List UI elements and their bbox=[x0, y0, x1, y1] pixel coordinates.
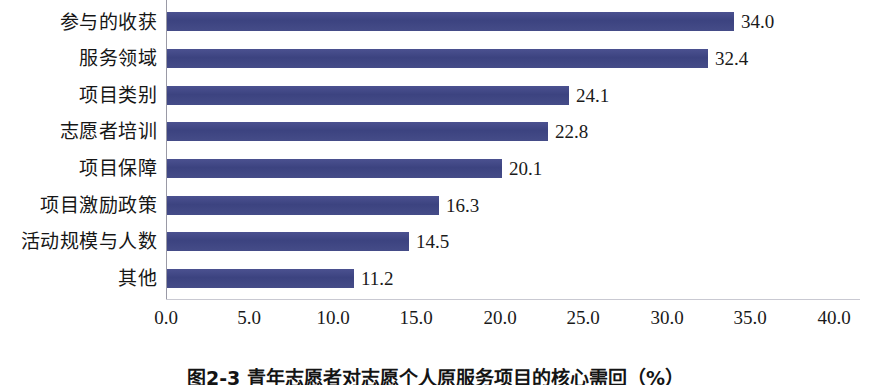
category-label: 服务领域 bbox=[79, 48, 157, 68]
bar-value-label: 16.3 bbox=[446, 196, 479, 215]
category-label: 项目激励政策 bbox=[40, 195, 157, 215]
bar-value-label: 22.8 bbox=[555, 122, 588, 141]
x-tick-label: 5.0 bbox=[237, 306, 261, 330]
bar bbox=[167, 86, 569, 105]
x-tick-label: 40.0 bbox=[817, 306, 850, 330]
x-tick-label: 30.0 bbox=[650, 306, 683, 330]
bar-value-label: 34.0 bbox=[741, 12, 774, 31]
bar-value-label: 20.1 bbox=[509, 159, 542, 178]
bar bbox=[167, 49, 708, 68]
figure-caption: 图2-3 青年志愿者对志愿个人原服务项目的核心需回（%） bbox=[0, 366, 871, 385]
bar bbox=[167, 122, 548, 141]
x-axis-line bbox=[166, 299, 860, 300]
plot-area: 34.0 32.4 24.1 22.8 20.1 16.3 14.5 11.2 bbox=[166, 0, 860, 300]
bar-value-label: 11.2 bbox=[361, 269, 394, 288]
bar-chart: 参与的收获 服务领域 项目类别 志愿者培训 项目保障 项目激励政策 活动规模与人… bbox=[0, 0, 871, 385]
bar-value-label: 32.4 bbox=[715, 49, 748, 68]
bar bbox=[167, 232, 409, 251]
category-axis-labels: 参与的收获 服务领域 项目类别 志愿者培训 项目保障 项目激励政策 活动规模与人… bbox=[0, 0, 163, 300]
bar bbox=[167, 269, 354, 288]
x-tick-label: 35.0 bbox=[733, 306, 766, 330]
x-tick-label: 15.0 bbox=[399, 306, 432, 330]
category-label: 活动规模与人数 bbox=[21, 231, 158, 251]
x-tick-label: 10.0 bbox=[316, 306, 349, 330]
category-label: 其他 bbox=[118, 268, 157, 288]
x-axis-tick-labels: 0.0 5.0 10.0 15.0 20.0 25.0 30.0 35.0 40… bbox=[166, 306, 866, 332]
category-label: 志愿者培训 bbox=[60, 121, 158, 141]
y-axis-line bbox=[166, 0, 167, 300]
bar bbox=[167, 196, 439, 215]
category-label: 参与的收获 bbox=[60, 12, 158, 32]
figure-caption-container: 图2-3 青年志愿者对志愿个人原服务项目的核心需回（%） bbox=[0, 366, 871, 385]
bar bbox=[167, 159, 502, 178]
bar bbox=[167, 12, 734, 31]
x-tick-label: 0.0 bbox=[154, 306, 178, 330]
bar-value-label: 24.1 bbox=[576, 86, 609, 105]
category-label: 项目保障 bbox=[79, 158, 157, 178]
bar-value-label: 14.5 bbox=[416, 232, 449, 251]
category-label: 项目类别 bbox=[79, 85, 157, 105]
x-tick-label: 25.0 bbox=[566, 306, 599, 330]
x-tick-label: 20.0 bbox=[483, 306, 516, 330]
